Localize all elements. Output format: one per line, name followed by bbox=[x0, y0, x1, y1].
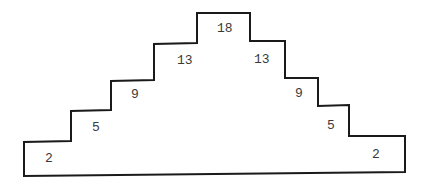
step-label-right-2: 5 bbox=[327, 118, 335, 133]
step-label-left-2: 5 bbox=[92, 120, 100, 135]
step-label-left-4: 13 bbox=[177, 53, 193, 68]
step-label-right-1: 2 bbox=[372, 147, 380, 162]
step-label-left-3: 9 bbox=[131, 87, 139, 102]
step-label-left-1: 2 bbox=[45, 151, 53, 166]
step-label-right-3: 9 bbox=[295, 86, 303, 101]
pyramid-outline bbox=[24, 13, 405, 176]
step-label-center-5: 18 bbox=[217, 21, 233, 36]
step-label-right-4: 13 bbox=[254, 52, 270, 67]
stepped-pyramid-diagram: 2 5 9 13 18 13 9 5 2 bbox=[0, 0, 426, 189]
